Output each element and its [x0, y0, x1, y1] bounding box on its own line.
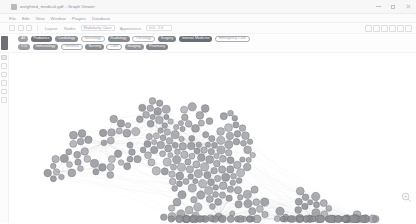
graph-node[interactable]: [99, 163, 107, 171]
graph-node[interactable]: [169, 170, 175, 176]
chip-nursing[interactable]: Nursing: [85, 44, 103, 51]
graph-node[interactable]: [197, 153, 205, 161]
graph-node[interactable]: [215, 198, 222, 205]
graph-node[interactable]: [225, 123, 233, 131]
graph-node[interactable]: [247, 138, 253, 144]
save-icon[interactable]: [26, 25, 32, 31]
network-graph-canvas[interactable]: [9, 53, 416, 224]
graph-node[interactable]: [149, 97, 156, 104]
graph-node[interactable]: [53, 168, 59, 174]
rail-item-hand-icon[interactable]: [1, 63, 7, 69]
graph-node[interactable]: [350, 214, 358, 222]
graph-node[interactable]: [189, 135, 195, 141]
graph-node[interactable]: [134, 155, 141, 162]
graph-node[interactable]: [194, 202, 202, 210]
graph-node[interactable]: [150, 114, 155, 119]
graph-node[interactable]: [327, 215, 335, 223]
graph-node[interactable]: [152, 166, 160, 174]
graph-node[interactable]: [209, 203, 215, 209]
graph-node[interactable]: [166, 137, 173, 144]
graph-node[interactable]: [188, 102, 196, 110]
graph-node[interactable]: [70, 140, 77, 147]
chip-pharmacy[interactable]: Pharmacy: [146, 44, 168, 51]
graph-node[interactable]: [68, 169, 76, 177]
graph-node[interactable]: [243, 163, 251, 171]
graph-node[interactable]: [217, 127, 225, 135]
graph-node[interactable]: [169, 178, 176, 185]
graph-node[interactable]: [168, 215, 174, 221]
graph-node[interactable]: [230, 180, 236, 186]
brush-tool-icon[interactable]: [389, 25, 396, 32]
graph-node[interactable]: [233, 121, 239, 127]
rail-item-node-icon[interactable]: [1, 89, 7, 95]
graph-node[interactable]: [219, 191, 225, 197]
graph-node[interactable]: [179, 142, 187, 150]
graph-node[interactable]: [188, 173, 194, 179]
graph-node[interactable]: [231, 173, 237, 179]
chip-internal-medicine[interactable]: Internal Medicine: [179, 36, 213, 43]
graph-node[interactable]: [156, 99, 162, 105]
graph-node[interactable]: [213, 184, 219, 190]
graph-node[interactable]: [50, 175, 56, 181]
graph-node[interactable]: [295, 206, 302, 213]
graph-node[interactable]: [227, 186, 233, 192]
graph-node[interactable]: [237, 215, 244, 222]
graph-node[interactable]: [334, 215, 341, 222]
close-button[interactable]: [405, 4, 411, 10]
graph-node[interactable]: [209, 135, 215, 141]
graph-node[interactable]: [162, 105, 170, 113]
graph-node[interactable]: [197, 190, 205, 198]
graph-node[interactable]: [288, 215, 295, 222]
graph-node[interactable]: [232, 115, 238, 121]
graph-node[interactable]: [249, 207, 256, 214]
graph-node[interactable]: [247, 216, 253, 222]
chip-immunology[interactable]: Immunology: [33, 44, 59, 51]
graph-node[interactable]: [144, 140, 151, 147]
graph-node[interactable]: [280, 216, 286, 222]
graph-node[interactable]: [196, 111, 204, 119]
rail-item-lasso-icon[interactable]: [1, 72, 7, 78]
graph-node[interactable]: [234, 161, 241, 168]
chip-all[interactable]: All: [18, 36, 28, 43]
menu-plugins[interactable]: Plugins: [72, 16, 86, 21]
graph-node[interactable]: [127, 142, 133, 148]
graph-node[interactable]: [194, 148, 200, 154]
chip-radiology[interactable]: Radiology: [108, 36, 130, 43]
graph-node[interactable]: [171, 130, 179, 138]
graph-node[interactable]: [66, 148, 72, 154]
graph-node[interactable]: [227, 215, 234, 222]
graph-node[interactable]: [201, 162, 209, 170]
zoom-fit-icon[interactable]: [365, 25, 372, 32]
graph-node[interactable]: [140, 147, 146, 153]
chip-imaging[interactable]: Imaging: [125, 44, 144, 51]
chip-cardiology[interactable]: Cardiology: [55, 36, 78, 43]
graph-node[interactable]: [93, 168, 99, 174]
graph-node[interactable]: [234, 186, 241, 193]
menu-view[interactable]: View: [35, 16, 44, 21]
graph-node[interactable]: [320, 199, 327, 206]
graph-node[interactable]: [78, 165, 84, 171]
graph-node[interactable]: [147, 120, 154, 127]
graph-node[interactable]: [172, 142, 178, 148]
graph-node[interactable]: [153, 132, 159, 138]
graph-node[interactable]: [194, 169, 202, 177]
graph-node[interactable]: [256, 205, 263, 212]
graph-node[interactable]: [84, 155, 91, 162]
graph-node[interactable]: [262, 211, 268, 217]
graph-node[interactable]: [188, 183, 196, 191]
graph-node[interactable]: [214, 153, 219, 158]
graph-node[interactable]: [50, 163, 56, 169]
graph-node[interactable]: [261, 198, 269, 206]
chip-rail-collapse[interactable]: [1, 36, 8, 50]
chip-oncology[interactable]: Oncology: [132, 36, 155, 43]
chip-labs[interactable]: Labs: [106, 44, 122, 51]
graph-node[interactable]: [201, 147, 207, 153]
graph-node[interactable]: [99, 129, 106, 136]
graph-node[interactable]: [75, 159, 81, 165]
graph-node[interactable]: [185, 158, 191, 164]
graph-node[interactable]: [174, 124, 179, 129]
graph-node[interactable]: [156, 116, 164, 124]
minimize-button[interactable]: [375, 4, 381, 10]
graph-node[interactable]: [81, 147, 89, 155]
graph-node[interactable]: [217, 145, 225, 153]
